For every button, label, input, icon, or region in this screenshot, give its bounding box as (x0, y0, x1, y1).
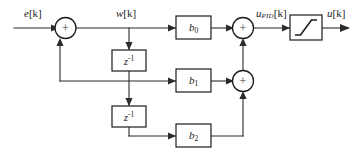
sign-summing-junction-3: + (240, 75, 247, 87)
label-gain-b0: b0 (189, 22, 198, 34)
arrowhead-delay2-input (125, 98, 132, 106)
label-b1-sub: 1 (194, 78, 198, 87)
pid-block-diagram: e[k] w[k] uPID[k] u[k] z-1 z-1 b0 b1 b2 … (0, 0, 357, 150)
label-presat-signal: uPID[k] (256, 8, 287, 20)
label-output-index: [k] (333, 7, 346, 19)
label-presat-index: [k] (274, 7, 287, 19)
arrowhead-output (340, 24, 350, 32)
arrowhead-delay1-input (125, 42, 132, 50)
label-output-signal: u[k] (327, 8, 345, 19)
label-input-signal: e[k] (24, 8, 42, 19)
label-input-index: [k] (29, 7, 42, 19)
arrowhead-sum3-bottom (239, 91, 246, 99)
label-w-index: [k] (123, 7, 136, 19)
label-gain-b1: b1 (189, 75, 198, 87)
arrowhead-b0-input (168, 24, 176, 31)
arrowhead-b1-input (168, 77, 176, 84)
label-b2-sub: 2 (194, 133, 198, 142)
label-b0-sub: 0 (194, 25, 198, 34)
label-presat-sub: PID (262, 12, 274, 20)
label-intermediate-signal: w[k] (116, 8, 136, 19)
label-delay-block-2: z-1 (124, 111, 135, 122)
arrowhead-saturation-input (282, 24, 290, 31)
label-gain-b2: b2 (189, 130, 198, 142)
label-delay1-exponent: -1 (128, 54, 134, 63)
arrowhead-sum2-bottom (239, 38, 246, 46)
diagram-canvas (0, 0, 357, 150)
label-delay2-exponent: -1 (128, 110, 134, 119)
arrowhead-sum1-feedback (56, 38, 63, 46)
label-delay-block-1: z-1 (124, 55, 135, 66)
sign-summing-junction-2: + (240, 22, 247, 34)
arrowhead-b2-input (168, 132, 176, 139)
sign-summing-junction-1: + (62, 22, 69, 34)
